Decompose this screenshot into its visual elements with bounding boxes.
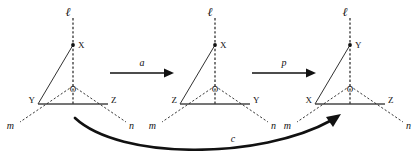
bottom-right-label-2: Y (253, 95, 260, 105)
apex-label-1: X (78, 40, 85, 50)
ray-label-n-2: n (271, 120, 276, 131)
axis-label-1: ℓ (66, 5, 71, 19)
diagram-3-group: ℓ Y O X Z m n (284, 5, 411, 131)
ray-label-n-3: n (406, 120, 411, 131)
arrow-p-label: p (281, 57, 287, 68)
arrow-c-shaft (75, 118, 332, 150)
arrow-c-label: c (231, 133, 236, 144)
apex-label-2: X (220, 40, 227, 50)
ray-label-m-1: m (7, 120, 14, 131)
axis-label-3: ℓ (343, 5, 348, 19)
bottom-left-label-3: X (306, 95, 313, 105)
center-label-1: O (70, 84, 77, 94)
axis-label-2: ℓ (208, 5, 213, 19)
bottom-left-label-2: Z (172, 95, 178, 105)
apex-dot-3 (348, 43, 352, 47)
apex-dot-2 (213, 43, 217, 47)
bottom-right-label-1: Z (111, 95, 117, 105)
diagram-2-group: ℓ X O Z Y m n (149, 5, 276, 131)
ray-label-m-2: m (149, 120, 156, 131)
bottom-left-label-1: Y (29, 95, 36, 105)
arrow-a-label: a (140, 57, 145, 68)
arrow-p-head (306, 69, 316, 78)
figure-canvas: ℓ X O Y Z m n a ℓ X O Z Y m (0, 0, 419, 151)
bottom-right-label-3: Z (388, 95, 394, 105)
triangle-symmetry-figure: ℓ X O Y Z m n a ℓ X O Z Y m (0, 0, 419, 151)
apex-label-3: Y (355, 40, 362, 50)
diagram-1-group: ℓ X O Y Z m n (7, 5, 134, 131)
apex-dot-1 (71, 43, 75, 47)
ray-label-m-3: m (284, 120, 291, 131)
arrow-p-group: p (252, 57, 316, 78)
arrow-a-group: a (110, 57, 174, 78)
center-label-2: O (212, 84, 219, 94)
ray-label-n-1: n (129, 120, 134, 131)
arrow-a-head (164, 69, 174, 78)
arrow-c-head (326, 114, 341, 127)
center-label-3: O (347, 84, 354, 94)
